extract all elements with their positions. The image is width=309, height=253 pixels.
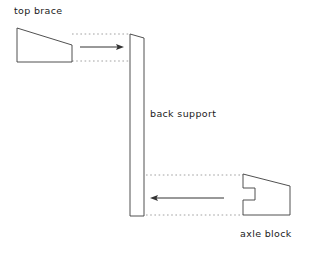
part-back-support [130,34,144,216]
assembly-drawing-canvas [0,0,309,253]
assembly-diagram: top brace back support axle block [0,0,309,253]
label-axle-block: axle block [240,229,292,239]
part-top-brace [17,28,72,62]
motion-arrow-top-brace [80,44,124,50]
part-axle-block [243,174,290,215]
motion-arrow-axle-block [150,195,224,201]
label-top-brace: top brace [14,6,63,16]
label-back-support: back support [150,109,216,119]
